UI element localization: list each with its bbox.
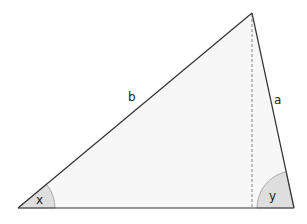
- label-angle-x: x: [36, 193, 43, 207]
- label-b: b: [128, 90, 136, 104]
- label-angle-y: y: [269, 189, 276, 203]
- triangle-fill: [18, 13, 294, 208]
- label-a: a: [274, 93, 281, 107]
- triangle-diagram: b a x y: [0, 0, 307, 224]
